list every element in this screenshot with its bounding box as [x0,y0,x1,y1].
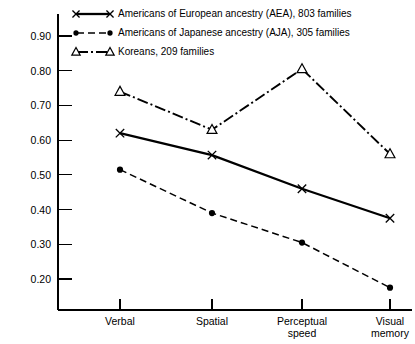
x-category-label: Visual [376,315,404,327]
marker-filled-circle-icon [387,285,393,291]
series-polyline [120,170,390,288]
x-category-label: speed [288,327,317,339]
y-axis-ticks: 0.200.300.400.500.600.700.800.90 [31,30,72,285]
line-chart: 0.200.300.400.500.600.700.800.90 VerbalS… [0,0,415,344]
marker-filled-circle-icon [209,210,215,216]
x-category-label: Spatial [196,315,228,327]
data-series [116,129,394,222]
y-tick-label: 0.40 [31,204,52,216]
y-tick-label: 0.60 [31,134,52,146]
chart-container: 0.200.300.400.500.600.700.800.90 VerbalS… [0,0,415,344]
marker-filled-circle-icon [73,30,78,35]
legend-item-label: Koreans, 209 families [118,46,214,57]
y-tick-label: 0.80 [31,65,52,77]
data-series [117,167,393,291]
chart-legend: Americans of European ancestry (AEA), 80… [72,8,352,57]
y-tick-label: 0.90 [31,30,52,42]
marker-filled-circle-icon [299,239,305,245]
legend-item-label: Americans of European ancestry (AEA), 80… [118,8,351,19]
x-category-label: Verbal [105,315,135,327]
marker-open-triangle-icon [297,64,307,73]
data-series-layer [115,64,395,291]
chart-axes [58,14,412,310]
data-series [115,64,395,158]
legend-item: Koreans, 209 families [72,46,214,57]
series-polyline [120,133,390,218]
marker-filled-circle-icon [107,30,112,35]
y-tick-label: 0.30 [31,238,52,250]
x-axis-ticks: VerbalSpatialPerceptualspeedVisualmemory [105,299,410,339]
marker-open-triangle-icon [115,86,125,95]
marker-filled-circle-icon [117,167,123,173]
y-tick-label: 0.20 [31,273,52,285]
y-tick-label: 0.50 [31,169,52,181]
marker-open-triangle-icon [106,48,114,56]
series-polyline [120,69,390,154]
legend-item: Americans of Japanese ancestry (AJA), 30… [73,27,349,38]
x-category-label: Perceptual [277,315,327,327]
legend-item-label: Americans of Japanese ancestry (AJA), 30… [118,27,350,38]
legend-item: Americans of European ancestry (AEA), 80… [72,8,351,19]
y-tick-label: 0.70 [31,99,52,111]
x-category-label: memory [371,327,410,339]
